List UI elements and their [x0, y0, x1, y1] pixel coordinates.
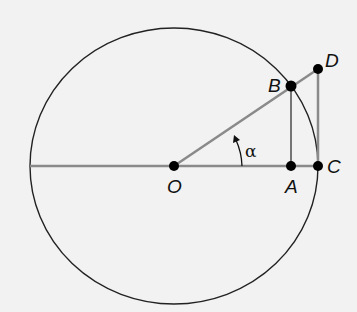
point-O — [169, 161, 179, 171]
angle-arc — [236, 140, 242, 166]
label-D: D — [325, 50, 339, 71]
point-A — [286, 161, 296, 171]
point-C — [313, 161, 323, 171]
point-D — [313, 64, 323, 74]
label-B: B — [268, 75, 281, 96]
label-A: A — [284, 176, 298, 197]
unit-circle-diagram: α O A B C D — [0, 0, 357, 312]
label-O: O — [167, 176, 182, 197]
label-C: C — [327, 156, 341, 177]
angle-label-alpha: α — [245, 141, 257, 161]
point-B — [286, 81, 297, 92]
